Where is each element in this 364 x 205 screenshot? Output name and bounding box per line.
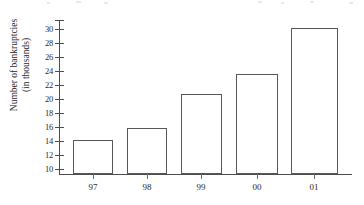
y-tick-label-14: 14 <box>31 137 53 146</box>
x-axis-line <box>59 174 352 175</box>
y-tick-16 <box>55 127 64 128</box>
x-tick-label-00: 00 <box>237 182 277 192</box>
y-tick-label-30: 30 <box>31 25 53 34</box>
y-tick-label-24-wrap: 24 <box>28 67 53 76</box>
y-tick-label-12-wrap: 12 <box>28 151 53 160</box>
y-tick-label-10-wrap: 10 <box>28 165 53 174</box>
bar-98[interactable] <box>127 128 167 174</box>
y-tick-label-18: 18 <box>31 109 53 118</box>
y-tick-20 <box>55 99 64 100</box>
bar-01[interactable] <box>291 28 338 174</box>
x-tick-99 <box>201 174 202 179</box>
y-tick-label-28: 28 <box>31 39 53 48</box>
y-tick-label-28-wrap: 28 <box>28 39 53 48</box>
y-tick-label-16: 16 <box>31 123 53 132</box>
y-tick-10 <box>55 169 64 170</box>
y-tick-label-24: 24 <box>31 67 53 76</box>
bar-00[interactable] <box>236 74 278 174</box>
x-tick-label-97: 97 <box>73 182 113 192</box>
y-tick-label-20-wrap: 20 <box>28 95 53 104</box>
y-axis-title-line-1: Number of bankruptcies <box>8 0 20 135</box>
y-tick-26 <box>55 57 64 58</box>
y-tick-label-10: 10 <box>31 165 53 174</box>
x-tick-label-98: 98 <box>127 182 167 192</box>
y-tick-24 <box>55 71 64 72</box>
plot-area: Number of bankruptcies (in thousands) 10… <box>0 0 364 205</box>
y-tick-label-18-wrap: 18 <box>28 109 53 118</box>
bar-chart-figure: Number of bankruptcies (in thousands) 10… <box>0 0 364 205</box>
x-tick-label-99: 99 <box>181 182 221 192</box>
y-tick-22 <box>55 85 64 86</box>
y-tick-label-16-wrap: 16 <box>28 123 53 132</box>
x-tick-label-01: 01 <box>294 182 334 192</box>
bar-97[interactable] <box>73 140 113 174</box>
x-tick-97 <box>93 174 94 179</box>
y-axis-top-cap <box>55 20 64 21</box>
y-tick-12 <box>55 155 64 156</box>
y-tick-label-26-wrap: 26 <box>28 53 53 62</box>
y-tick-label-20: 20 <box>31 95 53 104</box>
y-tick-30 <box>55 29 64 30</box>
y-tick-label-22: 22 <box>31 81 53 90</box>
y-tick-18 <box>55 113 64 114</box>
y-tick-label-22-wrap: 22 <box>28 81 53 90</box>
y-tick-label-30-wrap: 30 <box>28 25 53 34</box>
x-tick-00 <box>257 174 258 179</box>
y-tick-label-12: 12 <box>31 151 53 160</box>
y-tick-label-14-wrap: 14 <box>28 137 53 146</box>
x-tick-98 <box>147 174 148 179</box>
y-tick-label-26: 26 <box>31 53 53 62</box>
y-tick-14 <box>55 141 64 142</box>
x-tick-01 <box>314 174 315 179</box>
y-tick-28 <box>55 43 64 44</box>
bar-99[interactable] <box>181 94 222 174</box>
